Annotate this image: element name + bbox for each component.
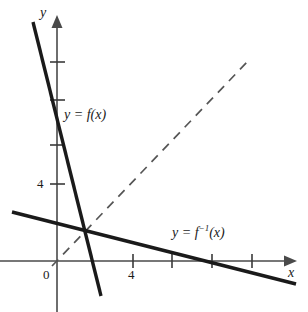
function-line [33,22,101,296]
inverse-label-suffix: (x) [209,225,225,240]
inverse-function-curve-label: y = f−1(x) [172,224,225,240]
y-axis-label: y [40,6,46,20]
function-inverse-graph-figure: y x 0 4 4 y = f(x) y = f−1(x) [0,0,308,312]
x-tick-label-4: 4 [128,268,135,281]
y-axis-arrowhead [52,15,63,28]
inverse-label-prefix: y = f [172,225,199,240]
inverse-label-exponent: −1 [199,223,210,233]
function-curve-label: y = f(x) [64,108,106,122]
inverse-function-line [12,212,296,284]
origin-label: 0 [43,268,50,281]
x-axis-label: x [288,266,294,280]
y-tick-label-4: 4 [37,177,44,190]
plot-canvas [0,0,308,312]
